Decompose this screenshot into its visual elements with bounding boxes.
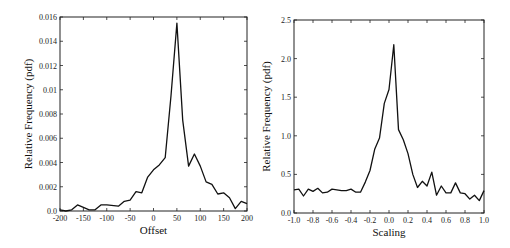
y-tick-label: 0.014 [39, 37, 57, 46]
x-tick-label: 100 [194, 214, 206, 223]
y-tick-label: 1.0 [281, 132, 291, 141]
y-tick-label: 2.5 [281, 16, 291, 25]
x-tick-label: 150 [218, 214, 230, 223]
y-axis-title: Relative Frequency (pdf) [260, 61, 273, 172]
x-tick-label: 0.0 [384, 216, 394, 225]
x-tick-label: -50 [125, 214, 136, 223]
scaling-histogram-plot: -1.0-0.8-0.6-0.4-0.20.00.20.40.60.81.00.… [260, 16, 489, 238]
x-tick-label: 0.2 [403, 216, 413, 225]
x-tick-label: 1.0 [479, 216, 489, 225]
x-tick-label: -150 [76, 214, 91, 223]
x-axis-title: Scaling [373, 226, 406, 238]
data-line [60, 23, 247, 211]
y-tick-label: 0.008 [39, 110, 57, 119]
y-axis-title: Relative Frequency (pdf) [22, 58, 35, 169]
y-tick-label: 0.0 [47, 207, 57, 216]
y-tick-label: 0.5 [281, 170, 291, 179]
y-tick-label: 0.0 [281, 209, 291, 218]
x-tick-label: 0 [152, 214, 156, 223]
plot-frame [60, 17, 247, 211]
figure: -200-150-100-500501001502000.00.0020.004… [0, 0, 510, 248]
data-line [294, 45, 484, 201]
y-tick-label: 0.002 [39, 183, 57, 192]
x-tick-label: 0.8 [460, 216, 470, 225]
y-tick-label: 0.01 [43, 86, 57, 95]
x-tick-label: 200 [241, 214, 253, 223]
x-tick-label: -0.2 [364, 216, 377, 225]
y-tick-label: 2.0 [281, 55, 291, 64]
x-tick-label: 50 [173, 214, 181, 223]
y-tick-label: 0.016 [39, 13, 57, 22]
y-tick-label: 1.5 [281, 93, 291, 102]
x-tick-label: -0.6 [326, 216, 339, 225]
x-tick-label: -0.4 [345, 216, 358, 225]
y-tick-label: 0.004 [39, 159, 57, 168]
y-tick-label: 0.006 [39, 134, 57, 143]
x-tick-label: -0.8 [307, 216, 320, 225]
x-tick-label: 0.6 [441, 216, 451, 225]
y-tick-label: 0.012 [39, 62, 57, 71]
offset-histogram-plot: -200-150-100-500501001502000.00.0020.004… [22, 13, 253, 236]
x-tick-label: -100 [99, 214, 114, 223]
x-tick-label: 0.4 [422, 216, 432, 225]
x-axis-title: Offset [140, 224, 167, 236]
